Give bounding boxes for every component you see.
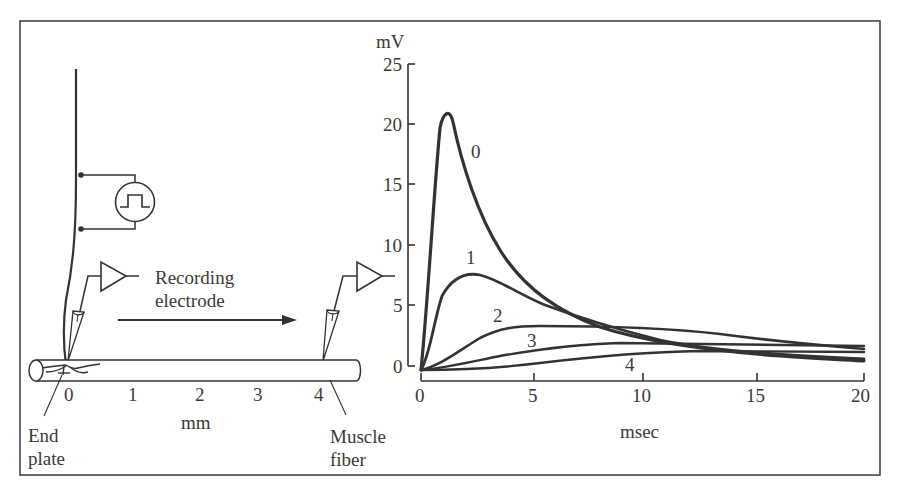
x-tick-label: 15 bbox=[746, 385, 765, 406]
curve-0 bbox=[421, 113, 864, 370]
x-axis-unit: msec bbox=[620, 421, 659, 442]
y-tick-label: 20 bbox=[383, 114, 402, 135]
apparatus-diagram: Recording electrode 0 1 2 3 4 mm End pla… bbox=[28, 69, 395, 470]
y-tick-label: 0 bbox=[393, 356, 403, 377]
arrow-right-icon bbox=[118, 315, 297, 325]
distance-axis-unit: mm bbox=[181, 412, 211, 433]
muscle-fiber-pointer bbox=[330, 380, 346, 415]
x-tick-label: 20 bbox=[851, 385, 870, 406]
curve-label-4: 4 bbox=[625, 354, 635, 375]
y-tick-label: 10 bbox=[383, 235, 402, 256]
electrode-icon bbox=[323, 310, 339, 361]
curve-label-0: 0 bbox=[471, 141, 481, 162]
figure-canvas: Recording electrode 0 1 2 3 4 mm End pla… bbox=[0, 0, 897, 491]
distance-tick: 0 bbox=[64, 384, 74, 405]
distance-tick: 3 bbox=[253, 384, 263, 405]
curve-4 bbox=[421, 351, 864, 370]
x-tick-label: 10 bbox=[632, 385, 651, 406]
muscle-fiber bbox=[29, 360, 361, 381]
stimulator-pulse-icon bbox=[78, 172, 154, 232]
amplifier-icon bbox=[334, 262, 395, 311]
figure-frame bbox=[20, 21, 880, 475]
end-plate-label: plate bbox=[28, 448, 65, 469]
y-tick-label: 15 bbox=[383, 174, 402, 195]
x-tick-label: 5 bbox=[528, 385, 538, 406]
y-tick-label: 5 bbox=[393, 295, 403, 316]
curve-label-3: 3 bbox=[527, 330, 537, 351]
epp-chart: mV 25 20 15 10 5 0 0 5 10 15 20 msec 0 1… bbox=[376, 31, 870, 442]
curve-2 bbox=[421, 326, 864, 370]
y-axis-unit: mV bbox=[376, 31, 405, 52]
curve-1 bbox=[421, 274, 864, 370]
recording-electrode-label: electrode bbox=[155, 290, 225, 311]
recording-electrode-label: Recording bbox=[155, 267, 235, 288]
muscle-fiber-label: Muscle bbox=[330, 426, 386, 447]
muscle-fiber-label: fiber bbox=[330, 449, 367, 470]
curve-label-2: 2 bbox=[493, 305, 503, 326]
end-plate-label: End bbox=[28, 425, 59, 446]
x-tick-label: 0 bbox=[415, 385, 425, 406]
distance-tick: 1 bbox=[128, 384, 138, 405]
curve-label-1: 1 bbox=[466, 247, 476, 268]
electrode-icon bbox=[68, 311, 84, 361]
y-axis bbox=[408, 64, 415, 366]
distance-tick: 2 bbox=[195, 384, 205, 405]
amplifier-icon bbox=[80, 262, 139, 311]
y-tick-label: 25 bbox=[383, 54, 402, 75]
distance-tick: 4 bbox=[314, 384, 324, 405]
x-axis bbox=[421, 373, 864, 381]
